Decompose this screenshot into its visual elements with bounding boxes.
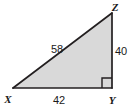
geometry-figure: X Y Z 58 40 42 (0, 0, 130, 109)
vertex-label-X: X (3, 93, 12, 105)
vertex-label-Z: Z (111, 1, 119, 13)
side-length-label-vertical-leg: 40 (115, 45, 127, 57)
vertex-label-Y: Y (109, 94, 117, 106)
triangle-svg-canvas: X Y Z 58 40 42 (0, 0, 130, 109)
side-length-label-horizontal-leg: 42 (53, 94, 65, 106)
side-length-label-hypotenuse: 58 (51, 43, 63, 55)
